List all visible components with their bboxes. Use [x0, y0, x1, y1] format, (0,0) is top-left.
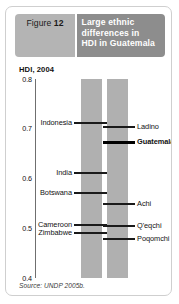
data-mark	[74, 172, 107, 174]
source-note: Source: UNDP 2005b.	[19, 282, 85, 289]
data-point-label: Guatemala	[137, 137, 172, 146]
data-point-label: Botswana	[16, 188, 72, 197]
y-axis-title: HDI, 2004	[19, 65, 54, 74]
data-mark	[74, 192, 107, 194]
data-mark	[103, 203, 135, 205]
data-mark	[74, 232, 107, 234]
figure-card: Figure 12 Large ethnicdifferences inHDI …	[5, 6, 172, 296]
series-band-left	[81, 79, 102, 278]
y-axis-tick-label: 0.8	[15, 75, 32, 84]
chart-plot-area: HDI, 2004 0.80.70.60.50.4 IndonesiaIndia…	[6, 7, 172, 296]
data-point-label: Q'eqchi	[137, 221, 172, 230]
data-point-label: Ladino	[137, 122, 172, 131]
data-point-label: Zimbabwe	[16, 228, 72, 237]
y-axis-line	[35, 79, 36, 278]
data-mark	[74, 122, 107, 124]
series-band-right	[107, 79, 128, 278]
data-mark	[103, 225, 135, 227]
data-mark	[103, 126, 135, 128]
data-mark	[103, 238, 135, 240]
data-mark	[103, 141, 135, 144]
data-point-label: Indonesia	[16, 118, 72, 127]
data-point-label: Achi	[137, 199, 172, 208]
data-point-label: Poqomchi	[137, 234, 172, 243]
data-point-label: India	[16, 168, 72, 177]
